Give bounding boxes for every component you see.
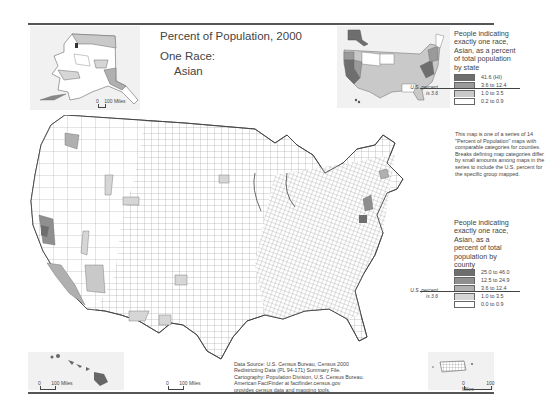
top-rule [28,23,494,25]
map-title: Percent of Population, 2000 [160,30,302,42]
legend-class: 1.0 to 3.5 [454,292,509,300]
state-legend-swatches: 41.6 (HI) 3.6 to 12.4 1.0 to 3.5 0.2 to … [454,73,506,105]
legend-class: 0.2 to 0.9 [454,97,506,105]
map-subtitle: One Race: Asian [160,49,215,79]
legend-class: 0.0 to 0.9 [454,300,509,308]
state-legend-heading: People indicating exactly one race, Asia… [454,30,516,72]
legend-class: 1.0 to 3.5 [454,89,506,97]
legend-class: 12.5 to 24.9 [454,276,509,284]
state-us-percent-label: U.S. percent is 3.6 [400,84,438,96]
county-legend-heading: People indicating exactly one race, Asia… [454,219,509,269]
conus-scale-bar: 0 100 Miles [166,380,226,386]
data-source-note: Data Source: U.S. Census Bureau, Census … [234,361,364,393]
alaska-scale-bar: 0 100 Miles [96,98,136,104]
county-legend-swatches: 25.0 to 46.0 12.5 to 24.9 3.6 to 12.4 1.… [454,268,509,308]
legend-class: 25.0 to 46.0 [454,268,509,276]
hawaii-scale-bar: 0 100 Miles [38,380,98,386]
puerto-rico-scale-bar: 0 100 Miles [462,380,502,392]
legend-class: 41.6 (HI) [454,73,506,81]
series-note: This map is one of a series of 14 "Perce… [455,131,550,177]
conus-county-map [25,115,425,365]
